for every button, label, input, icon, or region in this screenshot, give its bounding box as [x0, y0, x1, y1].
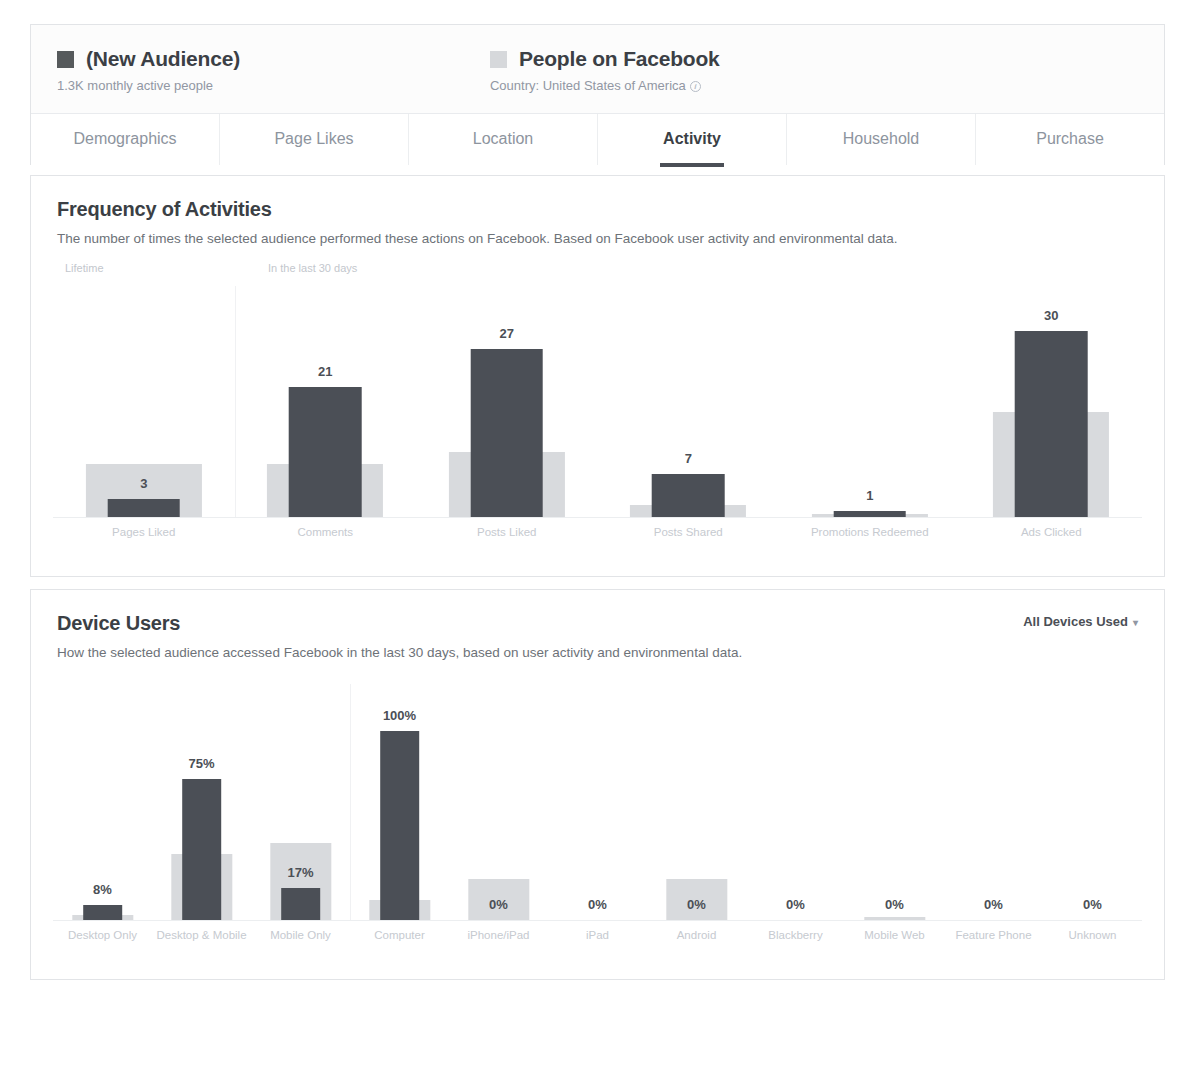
x-axis-label: Posts Liked [416, 525, 598, 541]
device-title: Device Users [57, 612, 1138, 635]
device-x-axis: Desktop OnlyDesktop & MobileMobile OnlyC… [53, 921, 1142, 965]
audience-bar [182, 779, 222, 921]
bar-group[interactable]: 3 [53, 278, 235, 517]
audience-bar [289, 387, 362, 518]
bar-value-label: 0% [984, 897, 1003, 912]
bar-value-label: 21 [318, 364, 332, 379]
bar-value-label: 0% [786, 897, 805, 912]
panel-gap [0, 165, 1195, 175]
bar-group[interactable]: 0% [548, 676, 647, 920]
bar-group[interactable]: 75% [152, 676, 251, 920]
frequency-card-header: Frequency of Activities The number of ti… [31, 176, 1164, 248]
bar-group[interactable]: 0% [746, 676, 845, 920]
audience-bar [1015, 331, 1088, 518]
bar-value-label: 75% [188, 756, 214, 771]
tab-demographics[interactable]: Demographics [31, 114, 220, 165]
bar-group[interactable]: 30 [961, 278, 1143, 517]
bar-group[interactable]: 0% [449, 676, 548, 920]
frequency-title: Frequency of Activities [57, 198, 1138, 221]
info-icon[interactable]: i [690, 81, 701, 92]
bar-value-label: 7 [685, 451, 692, 466]
bar-group[interactable]: 17% [251, 676, 350, 920]
device-card-footer [31, 965, 1164, 979]
selected-audience-block: (New Audience) 1.3K monthly active peopl… [57, 47, 240, 93]
tab-household[interactable]: Household [787, 114, 976, 165]
top-spacer [0, 0, 1195, 24]
bar-value-label: 100% [383, 708, 416, 723]
frequency-card-footer [31, 562, 1164, 576]
bar-group[interactable]: 100% [350, 676, 449, 920]
group-divider [350, 684, 351, 920]
audience-bar [652, 474, 725, 518]
comparison-subtitle: Country: United States of America [490, 78, 686, 93]
legend-last-30-days: In the last 30 days [268, 262, 357, 274]
group-divider [235, 286, 236, 517]
bar-group[interactable]: 0% [1043, 676, 1142, 920]
x-axis-label: Android [647, 928, 746, 944]
frequency-chart: Lifetime In the last 30 days 321277130 P… [43, 262, 1152, 562]
audience-bar [833, 511, 906, 517]
frequency-of-activities-card: Frequency of Activities The number of ti… [30, 175, 1165, 577]
frequency-description: The number of times the selected audienc… [57, 230, 1138, 248]
bar-group[interactable]: 7 [598, 278, 780, 517]
bar-value-label: 3 [140, 476, 147, 491]
device-plot-area: 8%75%17%100%0%0%0%0%0%0%0% [53, 676, 1142, 921]
bar-value-label: 0% [1083, 897, 1102, 912]
audience-header-panel: (New Audience) 1.3K monthly active peopl… [30, 24, 1165, 165]
bar-group[interactable]: 0% [845, 676, 944, 920]
x-axis-label: Blackberry [746, 928, 845, 944]
x-axis-label: Computer [350, 928, 449, 944]
bar-value-label: 27 [500, 326, 514, 341]
x-axis-label: Comments [235, 525, 417, 541]
insights-tabs: Demographics Page Likes Location Activit… [31, 114, 1164, 165]
bar-value-label: 17% [287, 865, 313, 880]
chevron-down-icon: ▾ [1133, 617, 1138, 628]
x-axis-label: Ads Clicked [961, 525, 1143, 541]
frequency-plot-area: 321277130 [53, 278, 1142, 518]
all-devices-used-label: All Devices Used [1023, 614, 1128, 629]
frequency-chart-legend: Lifetime In the last 30 days [53, 262, 1142, 278]
audience-subtitle: 1.3K monthly active people [57, 78, 240, 93]
bar-value-label: 0% [687, 897, 706, 912]
x-axis-label: Mobile Only [251, 928, 350, 944]
audience-color-swatch-icon [57, 51, 74, 68]
audience-bar [380, 731, 420, 920]
device-description: How the selected audience accessed Faceb… [57, 644, 1138, 662]
device-chart: 8%75%17%100%0%0%0%0%0%0%0% Desktop OnlyD… [43, 676, 1152, 965]
bar-group[interactable]: 27 [416, 278, 598, 517]
all-devices-used-dropdown[interactable]: All Devices Used▾ [1023, 614, 1138, 629]
x-axis-label: Promotions Redeemed [779, 525, 961, 541]
audience-title: (New Audience) [86, 47, 240, 71]
audience-bar [107, 499, 180, 518]
audience-summary-bar: (New Audience) 1.3K monthly active peopl… [31, 25, 1164, 114]
tab-location[interactable]: Location [409, 114, 598, 165]
bar-group[interactable]: 0% [647, 676, 746, 920]
bar-value-label: 0% [885, 897, 904, 912]
frequency-x-axis: Pages LikedCommentsPosts LikedPosts Shar… [53, 518, 1142, 562]
x-axis-label: Mobile Web [845, 928, 944, 944]
audience-bar [470, 349, 543, 517]
tab-activity[interactable]: Activity [598, 114, 787, 165]
legend-lifetime: Lifetime [65, 262, 104, 274]
bar-value-label: 0% [588, 897, 607, 912]
x-axis-label: Desktop & Mobile [152, 928, 251, 944]
x-axis-label: Feature Phone [944, 928, 1043, 944]
bar-value-label: 0% [489, 897, 508, 912]
device-users-card: Device Users How the selected audience a… [30, 589, 1165, 980]
comparison-subtitle-row: Country: United States of Americai [490, 78, 720, 93]
bar-value-label: 1 [866, 488, 873, 503]
bar-value-label: 30 [1044, 308, 1058, 323]
tab-purchase[interactable]: Purchase [976, 114, 1164, 165]
comparison-bar [864, 917, 925, 921]
bar-value-label: 8% [93, 882, 112, 897]
device-card-header: Device Users How the selected audience a… [31, 590, 1164, 662]
bar-group[interactable]: 0% [944, 676, 1043, 920]
x-axis-label: iPhone/iPad [449, 928, 548, 944]
bar-group[interactable]: 21 [235, 278, 417, 517]
x-axis-label: Desktop Only [53, 928, 152, 944]
tab-page-likes[interactable]: Page Likes [220, 114, 409, 165]
bar-group[interactable]: 8% [53, 676, 152, 920]
bar-group[interactable]: 1 [779, 278, 961, 517]
comparison-title: People on Facebook [519, 47, 720, 71]
audience-insights-page: (New Audience) 1.3K monthly active peopl… [0, 0, 1195, 1092]
